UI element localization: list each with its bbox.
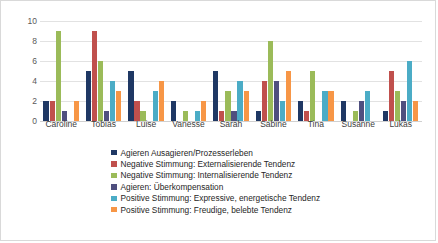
bar[interactable] [262, 81, 267, 121]
bar-group-lukas [380, 21, 422, 121]
y-axis-tick-8: 8 [15, 37, 37, 46]
bar[interactable] [50, 101, 55, 121]
bar[interactable] [365, 91, 370, 121]
y-axis-tick-10: 10 [15, 17, 37, 26]
x-axis-label-caroline: Caroline [40, 120, 82, 129]
x-axis-label-sarah: Sarah [210, 120, 252, 129]
legend-item-3[interactable]: Agieren: Überkompensation [111, 181, 223, 192]
bar[interactable] [171, 101, 176, 121]
x-axis-label-luise: Luise [125, 120, 167, 129]
bar[interactable] [244, 91, 249, 121]
legend-item-1[interactable]: Negative Stimmung: Externalisierende Ten… [111, 158, 295, 169]
bar-group-tina [295, 21, 337, 121]
bar[interactable] [159, 81, 164, 121]
bar[interactable] [110, 81, 115, 121]
bar[interactable] [86, 71, 91, 121]
y-axis-tick-0: 0 [15, 117, 37, 126]
bar[interactable] [322, 91, 327, 121]
y-axis: 0246810 [15, 21, 37, 121]
bar[interactable] [74, 101, 79, 121]
legend-item-4[interactable]: Positive Stimmung: Expressive, energetis… [111, 193, 320, 204]
legend-label: Agieren: Überkompensation [121, 183, 224, 191]
legend-label: Negative Stimmung: Internalisierende Ten… [121, 171, 293, 179]
bar[interactable] [401, 101, 406, 121]
legend-swatch-icon [111, 207, 117, 213]
x-axis-labels: CarolineTobiasLuiseVanesseSarahSabineTin… [40, 120, 422, 129]
legend-label: Negative Stimmung: Externalisierende Ten… [121, 160, 296, 168]
x-axis-label-vanesse: Vanesse [167, 120, 209, 129]
x-axis-label-susanne: Susanne [337, 120, 379, 129]
legend-swatch-icon [111, 184, 117, 190]
bar[interactable] [341, 101, 346, 121]
y-axis-tick-4: 4 [15, 77, 37, 86]
bar[interactable] [389, 71, 394, 121]
legend-swatch-icon [111, 173, 117, 179]
bar-group-luise [125, 21, 167, 121]
bar[interactable] [268, 41, 273, 121]
x-axis-label-tina: Tina [295, 120, 337, 129]
chart-container: 0246810 CarolineTobiasLuiseVanesseSarahS… [0, 0, 436, 241]
legend-swatch-icon [111, 161, 117, 167]
bar[interactable] [98, 61, 103, 121]
bar-groups [40, 21, 422, 121]
x-axis-label-lukas: Lukas [380, 120, 422, 129]
bar[interactable] [310, 71, 315, 121]
y-axis-tick-2: 2 [15, 97, 37, 106]
bar[interactable] [43, 101, 48, 121]
legend-label: Agieren Ausagieren/Prozesserleben [121, 149, 253, 157]
bar[interactable] [280, 101, 285, 121]
bar[interactable] [213, 71, 218, 121]
bar[interactable] [286, 71, 291, 121]
legend-swatch-icon [111, 150, 117, 156]
bar[interactable] [298, 101, 303, 121]
legend-label: Positive Stimmung: Freudige, belebte Ten… [121, 206, 292, 214]
bar[interactable] [153, 91, 158, 121]
bar[interactable] [134, 101, 139, 121]
bar[interactable] [92, 31, 97, 121]
bar-group-tobias [82, 21, 124, 121]
bar-group-sarah [210, 21, 252, 121]
chart-legend: Agieren Ausagieren/ProzesserlebenNegativ… [1, 147, 437, 215]
x-axis-label-tobias: Tobias [82, 120, 124, 129]
bar[interactable] [395, 91, 400, 121]
legend-item-5[interactable]: Positive Stimmung: Freudige, belebte Ten… [111, 204, 292, 215]
bar[interactable] [407, 61, 412, 121]
bar[interactable] [359, 101, 364, 121]
legend-swatch-icon [111, 196, 117, 202]
legend-item-0[interactable]: Agieren Ausagieren/Prozesserleben [111, 147, 253, 158]
x-axis-label-sabine: Sabine [252, 120, 294, 129]
bar[interactable] [56, 31, 61, 121]
legend-item-2[interactable]: Negative Stimmung: Internalisierende Ten… [111, 170, 292, 181]
bar[interactable] [328, 91, 333, 121]
bar[interactable] [128, 71, 133, 121]
legend-label: Positive Stimmung: Expressive, energetis… [121, 194, 321, 202]
bar[interactable] [201, 101, 206, 121]
y-axis-tick-6: 6 [15, 57, 37, 66]
plot-area: 0246810 [1, 7, 437, 137]
bar[interactable] [116, 91, 121, 121]
bar-group-susanne [337, 21, 379, 121]
bar[interactable] [413, 101, 418, 121]
bar-group-vanesse [167, 21, 209, 121]
bar-group-caroline [40, 21, 82, 121]
bar[interactable] [237, 81, 242, 121]
bar[interactable] [225, 91, 230, 121]
bar-group-sabine [252, 21, 294, 121]
bar[interactable] [274, 81, 279, 121]
